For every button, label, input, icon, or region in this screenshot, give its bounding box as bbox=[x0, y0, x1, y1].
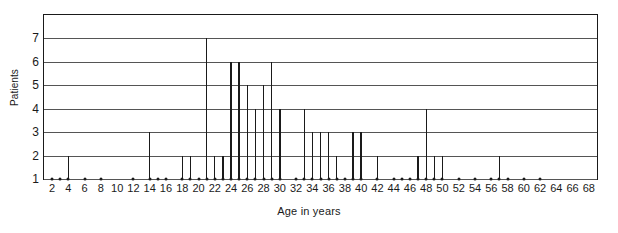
x-axis-tick-label: 48 bbox=[420, 182, 432, 194]
bar bbox=[279, 109, 280, 179]
data-point-marker bbox=[522, 178, 525, 181]
bar bbox=[263, 85, 264, 179]
data-point-marker bbox=[376, 178, 379, 181]
x-axis-tick-label: 16 bbox=[160, 182, 172, 194]
data-point-marker bbox=[327, 178, 330, 181]
x-axis-tick-label: 6 bbox=[82, 182, 88, 194]
bar bbox=[247, 85, 248, 179]
data-point-marker bbox=[148, 178, 151, 181]
x-axis-tick-label: 52 bbox=[453, 182, 465, 194]
data-point-marker bbox=[67, 178, 70, 181]
data-point-marker bbox=[278, 178, 281, 181]
x-axis-tick-label: 24 bbox=[225, 182, 237, 194]
x-axis-tick-label: 58 bbox=[501, 182, 513, 194]
x-axis-tick-label: 66 bbox=[566, 182, 578, 194]
bar bbox=[360, 132, 361, 179]
data-point-marker bbox=[441, 178, 444, 181]
data-point-marker bbox=[498, 178, 501, 181]
bar bbox=[328, 132, 329, 179]
data-point-marker bbox=[197, 178, 200, 181]
x-axis-tick-label: 38 bbox=[339, 182, 351, 194]
y-gridline bbox=[44, 62, 597, 63]
data-point-marker bbox=[51, 178, 54, 181]
bar bbox=[312, 132, 313, 179]
x-axis-tick-label: 46 bbox=[404, 182, 416, 194]
data-point-marker bbox=[360, 178, 363, 181]
data-point-marker bbox=[474, 178, 477, 181]
y-axis-tick-label: 7 bbox=[32, 31, 39, 45]
bar bbox=[336, 156, 337, 179]
x-axis-tick-label: 34 bbox=[306, 182, 318, 194]
patients-by-age-chart: Patients 1234567246810121416182022242628… bbox=[0, 0, 618, 233]
x-axis-tick-label: 10 bbox=[111, 182, 123, 194]
bar bbox=[214, 156, 215, 179]
y-axis-tick-label: 6 bbox=[32, 55, 39, 69]
data-point-marker bbox=[392, 178, 395, 181]
x-axis-tick-label: 12 bbox=[127, 182, 139, 194]
y-axis-tick-label: 5 bbox=[32, 78, 39, 92]
data-point-marker bbox=[164, 178, 167, 181]
bar bbox=[68, 156, 69, 179]
y-axis-tick-label: 3 bbox=[32, 125, 39, 139]
bar bbox=[377, 156, 378, 179]
data-point-marker bbox=[132, 178, 135, 181]
data-point-marker bbox=[189, 178, 192, 181]
data-point-marker bbox=[343, 178, 346, 181]
x-axis-tick-label: 30 bbox=[274, 182, 286, 194]
bar bbox=[149, 132, 150, 179]
data-point-marker bbox=[433, 178, 436, 181]
bar bbox=[442, 156, 443, 179]
bar bbox=[255, 109, 256, 179]
data-point-marker bbox=[400, 178, 403, 181]
y-axis-tick-label: 1 bbox=[32, 172, 39, 186]
data-point-marker bbox=[417, 178, 420, 181]
data-point-marker bbox=[311, 178, 314, 181]
x-axis-tick-label: 42 bbox=[371, 182, 383, 194]
x-axis-tick-label: 2 bbox=[49, 182, 55, 194]
y-axis-tick-label: 4 bbox=[32, 102, 39, 116]
data-point-marker bbox=[262, 178, 265, 181]
bar bbox=[182, 156, 183, 179]
data-point-marker bbox=[181, 178, 184, 181]
data-point-marker bbox=[238, 178, 241, 181]
plot-area: 1234567246810121416182022242628303234363… bbox=[43, 14, 598, 180]
bar bbox=[426, 109, 427, 179]
bar bbox=[230, 62, 231, 179]
x-axis-tick-label: 36 bbox=[323, 182, 335, 194]
bar bbox=[499, 156, 500, 179]
bar bbox=[304, 109, 305, 179]
y-gridline bbox=[44, 85, 597, 86]
x-axis-tick-label: 32 bbox=[290, 182, 302, 194]
data-point-marker bbox=[83, 178, 86, 181]
x-axis-tick-label: 56 bbox=[485, 182, 497, 194]
x-axis-tick-label: 54 bbox=[469, 182, 481, 194]
data-point-marker bbox=[539, 178, 542, 181]
data-point-marker bbox=[425, 178, 428, 181]
x-axis-tick-label: 64 bbox=[550, 182, 562, 194]
x-axis-tick-label: 44 bbox=[388, 182, 400, 194]
data-point-marker bbox=[352, 178, 355, 181]
bar bbox=[271, 62, 272, 179]
bar bbox=[238, 62, 239, 179]
y-gridline bbox=[44, 109, 597, 110]
data-point-marker bbox=[254, 178, 257, 181]
x-axis-tick-label: 28 bbox=[257, 182, 269, 194]
x-axis-tick-label: 4 bbox=[65, 182, 71, 194]
x-axis-tick-label: 60 bbox=[518, 182, 530, 194]
data-point-marker bbox=[213, 178, 216, 181]
bar bbox=[434, 156, 435, 179]
bar bbox=[206, 38, 207, 179]
x-axis-tick-label: 68 bbox=[583, 182, 595, 194]
x-axis-tick-label: 22 bbox=[209, 182, 221, 194]
x-axis-tick-label: 40 bbox=[355, 182, 367, 194]
x-axis-tick-label: 8 bbox=[98, 182, 104, 194]
data-point-marker bbox=[319, 178, 322, 181]
x-axis-title: Age in years bbox=[0, 205, 618, 217]
data-point-marker bbox=[335, 178, 338, 181]
bar bbox=[222, 156, 223, 179]
x-axis-tick-label: 20 bbox=[192, 182, 204, 194]
data-point-marker bbox=[270, 178, 273, 181]
bar bbox=[190, 156, 191, 179]
bar bbox=[417, 156, 418, 179]
data-point-marker bbox=[230, 178, 233, 181]
